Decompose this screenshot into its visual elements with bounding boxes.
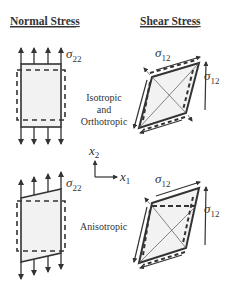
- sigma12-label-top-right: σ12: [204, 68, 219, 86]
- coordinate-axes: [95, 161, 117, 177]
- sigma12-label-top: σ12: [155, 45, 170, 63]
- sigma22-label-top: σ22: [66, 46, 81, 64]
- and-label: and: [97, 104, 111, 115]
- normal-isotropic-element: [17, 48, 65, 144]
- sigma22-label-bottom: σ22: [66, 175, 81, 193]
- shear-anisotropic-element: [134, 182, 206, 268]
- isotropic-label: Isotropic: [86, 92, 122, 103]
- normal-stress-header: Normal Stress: [10, 15, 80, 27]
- shear-stress-header: Shear Stress: [140, 15, 201, 27]
- shear-isotropic-element: [134, 57, 206, 133]
- sigma12-label-bottom-right: σ12: [204, 201, 219, 219]
- stress-diagram: Normal Stress Shear Stress σ22: [0, 0, 234, 291]
- normal-anisotropic-element: [17, 172, 65, 279]
- orthotropic-label: Orthotropic: [81, 116, 128, 127]
- anisotropic-label: Anisotropic: [80, 221, 128, 232]
- x2-axis-label: x2: [88, 143, 99, 160]
- sigma12-label-bottom: σ12: [155, 171, 170, 189]
- x1-axis-label: x1: [119, 169, 130, 186]
